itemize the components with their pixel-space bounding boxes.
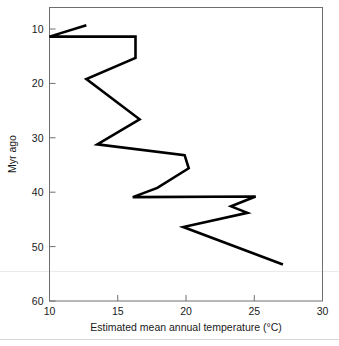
x-axis-title: Estimated mean annual temperature (°C) bbox=[90, 321, 282, 333]
y-tick-label-60: 60 bbox=[32, 295, 44, 307]
x-tick-labels: 1015202530 bbox=[44, 305, 329, 317]
plot-border bbox=[50, 8, 323, 302]
x-tick-label-15: 15 bbox=[112, 305, 124, 317]
x-tick-label-20: 20 bbox=[180, 305, 192, 317]
x-tick-label-10: 10 bbox=[44, 305, 56, 317]
y-tick-labels: 102030405060 bbox=[32, 23, 44, 307]
plot-frame bbox=[50, 8, 323, 302]
line-chart: 1015202530 102030405060 Estimated mean a… bbox=[0, 0, 339, 346]
y-tick-label-20: 20 bbox=[32, 77, 44, 89]
y-axis-ticks bbox=[50, 29, 56, 301]
x-tick-label-30: 30 bbox=[317, 305, 329, 317]
data-series-group bbox=[50, 25, 283, 264]
y-tick-label-50: 50 bbox=[32, 241, 44, 253]
x-axis-ticks bbox=[50, 295, 323, 301]
y-tick-label-30: 30 bbox=[32, 132, 44, 144]
y-axis-title: Myr ago bbox=[6, 135, 18, 173]
y-tick-label-10: 10 bbox=[32, 23, 44, 35]
temperature-line bbox=[50, 25, 283, 264]
y-tick-label-40: 40 bbox=[32, 186, 44, 198]
chart-figure: 1015202530 102030405060 Estimated mean a… bbox=[0, 0, 339, 346]
x-tick-label-25: 25 bbox=[248, 305, 260, 317]
